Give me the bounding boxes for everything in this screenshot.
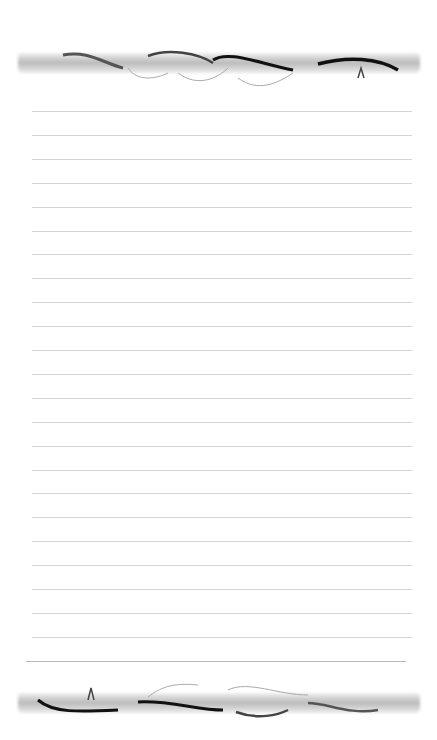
ruled-line bbox=[32, 517, 412, 518]
ruled-line bbox=[32, 422, 412, 423]
ruled-line bbox=[32, 135, 412, 136]
ruled-line bbox=[32, 111, 412, 112]
ruled-line bbox=[32, 565, 412, 566]
ruled-line bbox=[32, 254, 412, 255]
ruled-line bbox=[32, 470, 412, 471]
ruled-line bbox=[32, 183, 412, 184]
ruled-line bbox=[32, 374, 412, 375]
ruled-line bbox=[32, 613, 412, 614]
ruled-line bbox=[32, 446, 412, 447]
ruled-line bbox=[32, 278, 412, 279]
ruled-line bbox=[32, 231, 412, 232]
ruled-line bbox=[32, 637, 412, 638]
ruled-line bbox=[32, 326, 412, 327]
ruled-line bbox=[32, 207, 412, 208]
ruled-lines bbox=[0, 0, 437, 740]
ruled-line bbox=[32, 589, 412, 590]
ruled-line bbox=[32, 350, 412, 351]
vine-icon bbox=[18, 675, 420, 725]
ruled-line bbox=[26, 661, 406, 662]
ruled-line bbox=[32, 302, 412, 303]
ruled-line bbox=[32, 398, 412, 399]
ruled-line bbox=[32, 541, 412, 542]
bottom-vine-border bbox=[18, 683, 420, 723]
ruled-line bbox=[32, 493, 412, 494]
ruled-line bbox=[32, 159, 412, 160]
